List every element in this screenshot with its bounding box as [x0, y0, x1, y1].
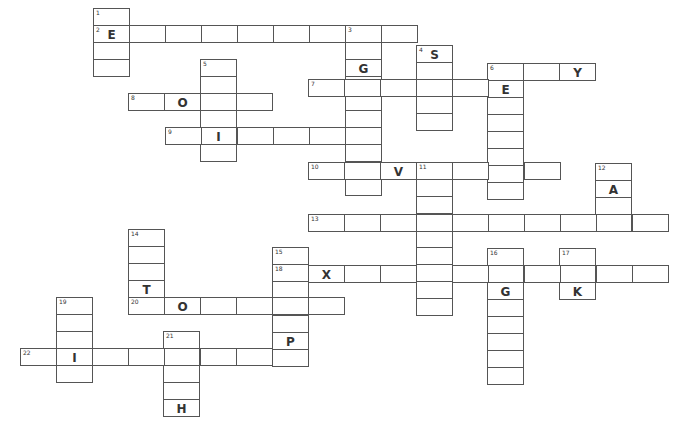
- crossword-cell[interactable]: [487, 350, 524, 368]
- crossword-cell[interactable]: G: [487, 282, 524, 300]
- crossword-cell[interactable]: [416, 230, 453, 248]
- crossword-cell[interactable]: [452, 214, 489, 232]
- crossword-cell[interactable]: 12: [595, 163, 632, 181]
- crossword-cell[interactable]: [487, 97, 524, 115]
- crossword-cell[interactable]: A: [595, 180, 632, 198]
- crossword-cell[interactable]: X: [308, 265, 345, 283]
- crossword-cell[interactable]: [163, 382, 200, 400]
- crossword-cell[interactable]: [380, 265, 417, 283]
- crossword-cell[interactable]: [452, 162, 489, 180]
- crossword-cell[interactable]: [452, 265, 489, 283]
- crossword-cell[interactable]: [416, 247, 453, 265]
- crossword-cell[interactable]: [237, 25, 274, 43]
- crossword-cell[interactable]: H: [163, 399, 200, 417]
- crossword-cell[interactable]: [416, 196, 453, 214]
- crossword-cell[interactable]: [524, 214, 561, 232]
- crossword-cell[interactable]: [93, 59, 130, 77]
- crossword-cell[interactable]: 2E: [93, 25, 130, 43]
- crossword-cell[interactable]: [487, 265, 524, 283]
- crossword-cell[interactable]: [345, 110, 382, 128]
- crossword-cell[interactable]: [487, 114, 524, 132]
- crossword-cell[interactable]: 1: [93, 8, 130, 26]
- crossword-cell[interactable]: [380, 79, 417, 97]
- crossword-cell[interactable]: [200, 348, 237, 366]
- crossword-cell[interactable]: 16: [487, 248, 524, 266]
- crossword-cell[interactable]: [381, 25, 418, 43]
- crossword-cell[interactable]: [487, 165, 524, 183]
- crossword-cell[interactable]: [272, 349, 309, 367]
- crossword-cell[interactable]: I: [200, 127, 237, 145]
- crossword-cell[interactable]: 7: [308, 79, 345, 97]
- crossword-cell[interactable]: [128, 348, 165, 366]
- crossword-cell[interactable]: [200, 144, 237, 162]
- crossword-cell[interactable]: 4S: [416, 45, 453, 63]
- crossword-cell[interactable]: 9: [165, 127, 202, 145]
- crossword-cell[interactable]: [524, 265, 561, 283]
- crossword-cell[interactable]: [523, 63, 560, 81]
- crossword-cell[interactable]: [236, 348, 273, 366]
- crossword-cell[interactable]: 6: [487, 63, 524, 81]
- crossword-cell[interactable]: [165, 25, 202, 43]
- crossword-cell[interactable]: [416, 298, 453, 316]
- crossword-cell[interactable]: [416, 214, 453, 232]
- crossword-cell[interactable]: [201, 25, 238, 43]
- crossword-cell[interactable]: [416, 281, 453, 299]
- crossword-cell[interactable]: Y: [559, 63, 596, 81]
- crossword-cell[interactable]: K: [559, 282, 596, 300]
- crossword-cell[interactable]: [487, 333, 524, 351]
- crossword-cell[interactable]: [344, 79, 381, 97]
- crossword-cell[interactable]: [344, 265, 381, 283]
- crossword-cell[interactable]: [236, 297, 273, 315]
- crossword-cell[interactable]: G: [345, 59, 382, 77]
- crossword-cell[interactable]: [236, 93, 273, 111]
- crossword-cell[interactable]: [632, 214, 669, 232]
- crossword-cell[interactable]: [380, 214, 417, 232]
- crossword-cell[interactable]: [345, 127, 382, 145]
- crossword-cell[interactable]: 5: [200, 59, 237, 77]
- crossword-cell[interactable]: [632, 265, 669, 283]
- crossword-cell[interactable]: 18: [272, 264, 309, 282]
- crossword-cell[interactable]: [595, 214, 632, 232]
- crossword-cell[interactable]: T: [128, 280, 165, 298]
- crossword-cell[interactable]: [344, 162, 381, 180]
- crossword-cell[interactable]: [487, 299, 524, 317]
- crossword-cell[interactable]: [452, 79, 489, 97]
- crossword-cell[interactable]: [487, 316, 524, 334]
- crossword-cell[interactable]: [200, 297, 237, 315]
- crossword-cell[interactable]: 13: [308, 214, 345, 232]
- crossword-cell[interactable]: 21: [163, 331, 200, 349]
- crossword-cell[interactable]: [129, 25, 166, 43]
- crossword-cell[interactable]: [273, 127, 310, 145]
- crossword-cell[interactable]: [56, 365, 93, 383]
- crossword-cell[interactable]: [560, 214, 597, 232]
- crossword-cell[interactable]: [487, 367, 524, 385]
- crossword-cell[interactable]: [487, 182, 524, 200]
- crossword-cell[interactable]: 10: [308, 162, 345, 180]
- crossword-cell[interactable]: [273, 25, 310, 43]
- crossword-cell[interactable]: [163, 348, 200, 366]
- crossword-cell[interactable]: [237, 127, 274, 145]
- crossword-cell[interactable]: [272, 315, 309, 333]
- crossword-cell[interactable]: [128, 246, 165, 264]
- crossword-cell[interactable]: [272, 297, 309, 315]
- crossword-cell[interactable]: [524, 162, 561, 180]
- crossword-cell[interactable]: 11: [416, 162, 453, 180]
- crossword-cell[interactable]: [200, 76, 237, 94]
- crossword-cell[interactable]: 20: [128, 297, 165, 315]
- crossword-cell[interactable]: [56, 314, 93, 332]
- crossword-cell[interactable]: [416, 62, 453, 80]
- crossword-cell[interactable]: [309, 25, 346, 43]
- crossword-cell[interactable]: E: [487, 80, 524, 98]
- crossword-cell[interactable]: [416, 179, 453, 197]
- crossword-cell[interactable]: 14: [128, 229, 165, 247]
- crossword-cell[interactable]: V: [380, 162, 417, 180]
- crossword-cell[interactable]: 22: [20, 348, 57, 366]
- crossword-cell[interactable]: [416, 96, 453, 114]
- crossword-cell[interactable]: [92, 348, 129, 366]
- crossword-cell[interactable]: [416, 113, 453, 131]
- crossword-cell[interactable]: [345, 42, 382, 60]
- crossword-cell[interactable]: [487, 148, 524, 166]
- crossword-cell[interactable]: I: [56, 348, 93, 366]
- crossword-cell[interactable]: [487, 131, 524, 149]
- crossword-cell[interactable]: [56, 331, 93, 349]
